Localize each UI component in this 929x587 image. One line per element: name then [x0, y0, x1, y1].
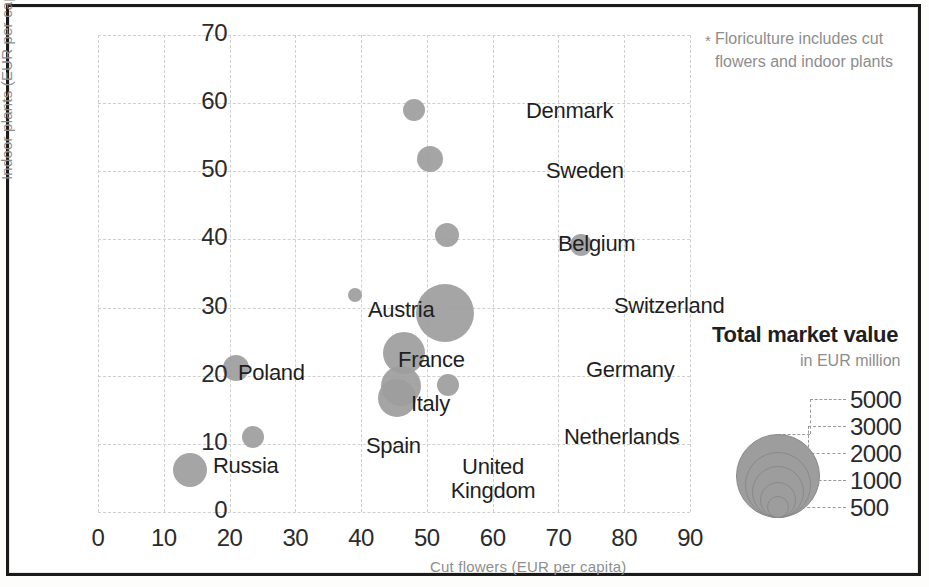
gridline-vertical — [361, 35, 362, 512]
y-axis-title: Indoor plants (EUR per capita) — [0, 0, 15, 180]
gridline-vertical — [98, 35, 99, 512]
x-axis-tick-label: 10 — [144, 524, 184, 552]
footnote-text: Floriculture includes cut flowers and in… — [715, 30, 893, 70]
bubble-russia[interactable] — [173, 453, 207, 487]
country-label-switzerland: Switzerland — [614, 293, 724, 319]
gridline-vertical — [427, 35, 428, 512]
x-axis-title: Cut flowers (EUR per capita) — [430, 558, 627, 575]
x-axis-tick-label: 80 — [604, 524, 644, 552]
footnote: * Floriculture includes cut flowers and … — [715, 28, 915, 73]
country-label-belgium: Belgium — [558, 231, 635, 257]
country-label-spain: Spain — [366, 433, 421, 459]
y-axis-tick-label: 30 — [167, 292, 227, 320]
legend-value-1000: 1000 — [850, 467, 901, 495]
x-axis-tick-label: 30 — [275, 524, 315, 552]
x-axis-tick-label: 50 — [407, 524, 447, 552]
y-axis-tick-label: 10 — [167, 428, 227, 456]
country-label-sweden: Sweden — [546, 158, 624, 184]
legend-leader-line — [810, 399, 846, 400]
legend-leader-line — [810, 399, 811, 434]
gridline-vertical — [230, 35, 231, 512]
country-label-united-kingdom: UnitedKingdom — [433, 455, 553, 503]
bubble-spain[interactable] — [242, 426, 264, 448]
legend-leader-line — [802, 507, 846, 508]
y-axis-tick-label: 0 — [167, 496, 227, 524]
y-axis-tick-label: 60 — [167, 87, 227, 115]
x-axis-tick-label: 20 — [210, 524, 250, 552]
bubble-austria[interactable] — [348, 288, 362, 302]
floriculture-bubble-chart-figure: * Floriculture includes cut flowers and … — [0, 0, 929, 587]
legend-value-500: 500 — [850, 494, 889, 522]
legend-subtitle: in EUR million — [800, 352, 900, 370]
country-label-denmark: Denmark — [526, 98, 613, 124]
legend-value-3000: 3000 — [850, 413, 901, 441]
x-axis-tick-label: 60 — [473, 524, 513, 552]
country-label-poland: Poland — [238, 360, 305, 386]
y-axis-tick-label: 50 — [167, 155, 227, 183]
legend-size-key: 5000300020001000500 — [730, 390, 920, 525]
y-axis-tick-label: 20 — [167, 360, 227, 388]
legend-title: Total market value — [712, 322, 898, 348]
country-label-russia: Russia — [213, 453, 278, 479]
footnote-marker: * — [705, 30, 711, 51]
legend-value-5000: 5000 — [850, 386, 901, 414]
x-axis-tick-label: 0 — [78, 524, 118, 552]
legend-circle-500 — [767, 496, 789, 518]
country-label-france: France — [398, 347, 465, 373]
x-axis-tick-label: 40 — [341, 524, 381, 552]
y-axis-tick-label: 40 — [167, 223, 227, 251]
legend-leader-line — [808, 426, 846, 427]
x-axis-tick-label: 90 — [670, 524, 710, 552]
gridline-vertical — [493, 35, 494, 512]
bubble-sweden[interactable] — [417, 146, 443, 172]
country-label-austria: Austria — [368, 297, 434, 323]
country-label-germany: Germany — [586, 357, 674, 383]
bubble-denmark[interactable] — [403, 99, 425, 121]
y-axis-tick-label: 70 — [167, 19, 227, 47]
bubble-united-kingdom[interactable] — [378, 379, 416, 417]
x-axis-tick-label: 70 — [538, 524, 578, 552]
bubble-belgium[interactable] — [435, 223, 459, 247]
country-label-netherlands: Netherlands — [564, 424, 679, 450]
gridline-vertical — [164, 35, 165, 512]
gridline-vertical — [690, 35, 691, 512]
legend-value-2000: 2000 — [850, 440, 901, 468]
gridline-vertical — [295, 35, 296, 512]
country-label-italy: Italy — [411, 391, 450, 417]
